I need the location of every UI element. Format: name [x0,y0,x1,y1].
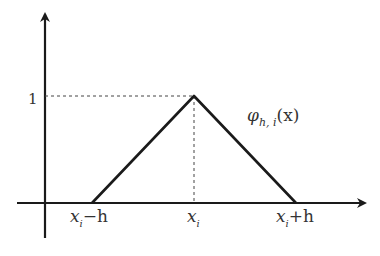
x-tick-label-left: xi−h [70,206,108,229]
hat-function-diagram: 1 φh, i(x) xi−h xi xi+h [0,0,380,256]
x-tick-label-right: xi+h [276,206,314,229]
y-tick-label-1: 1 [28,90,38,108]
x-tick-label-center: xi [187,206,200,229]
function-label: φh, i(x) [247,105,299,129]
